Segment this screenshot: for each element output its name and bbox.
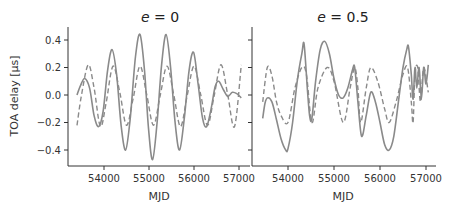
y-tick-label: −0.2 (37, 117, 61, 128)
figure: e = 0 0.40.20.0−0.2−0.4 5400055000560005… (0, 0, 458, 212)
x-axis-label: MJD (148, 190, 169, 203)
x-tick-label: 57000 (410, 173, 442, 184)
y-ticks: 0.40.20.0−0.2−0.4 (37, 35, 68, 156)
panel-e05: e = 0.5 54000550005600057000 MJD (248, 9, 442, 203)
plot-area (77, 34, 241, 159)
y-tick-label: 0.0 (45, 90, 61, 101)
x-tick-label: 54000 (88, 173, 120, 184)
panel-title: e = 0 (141, 9, 179, 25)
x-tick-label: 55000 (133, 173, 165, 184)
x-tick-label: 56000 (178, 173, 210, 184)
y-ticks (248, 40, 252, 150)
x-tick-label: 55000 (318, 173, 350, 184)
y-tick-label: 0.4 (45, 35, 61, 46)
y-tick-label: 0.2 (45, 62, 61, 73)
y-tick-label: −0.4 (37, 145, 61, 156)
x-ticks: 54000550005600057000 (272, 166, 442, 184)
panel-title: e = 0.5 (317, 9, 369, 25)
solid-series-line (77, 34, 241, 159)
panel-e0: e = 0 0.40.20.0−0.2−0.4 5400055000560005… (8, 9, 255, 203)
x-tick-label: 56000 (364, 173, 396, 184)
x-ticks: 54000550005600057000 (88, 166, 255, 184)
y-axis-label: TOA delay [μs] (8, 55, 21, 137)
x-tick-label: 54000 (272, 173, 304, 184)
x-tick-label: 57000 (223, 173, 255, 184)
plot-area (263, 41, 429, 151)
x-axis-label: MJD (332, 190, 353, 203)
solid-series-line (263, 41, 429, 151)
